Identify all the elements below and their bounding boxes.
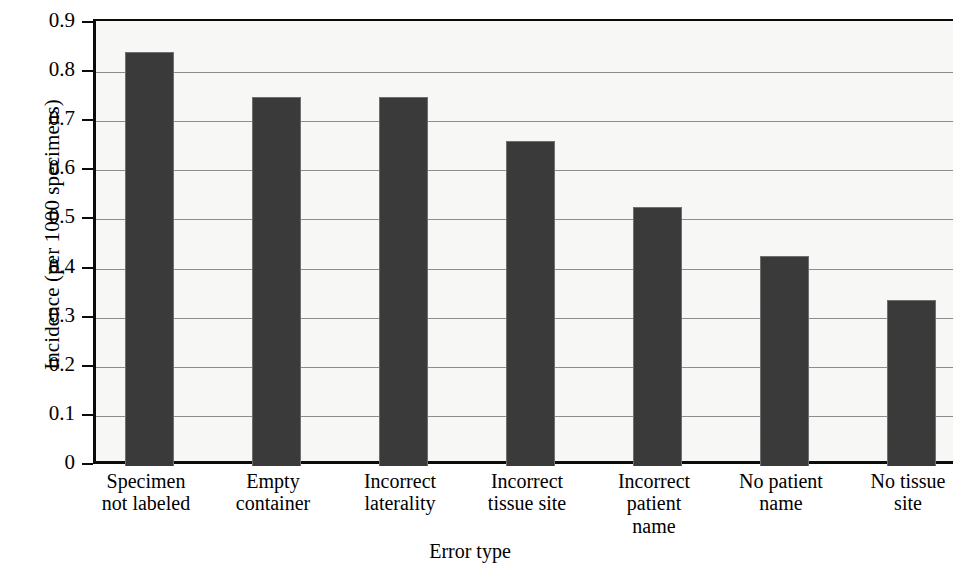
category-label-line: site [828, 492, 953, 514]
y-axis-tick-label: 0.8 [0, 59, 75, 80]
x-axis-title: Error type [390, 540, 550, 563]
y-axis-tick-label: 0.5 [0, 206, 75, 227]
bar [760, 256, 809, 466]
bar [125, 52, 174, 466]
bar [252, 97, 301, 466]
bar [887, 300, 936, 466]
y-axis-tick-label: 0.7 [0, 108, 75, 129]
y-axis-tick-label: 0.9 [0, 10, 75, 31]
bar [633, 207, 682, 466]
y-axis-tick-label: 0.1 [0, 403, 75, 424]
plot-area [93, 19, 953, 464]
y-axis-tick-label: 0.6 [0, 157, 75, 178]
y-axis-tick [82, 267, 93, 269]
y-axis-tick [82, 463, 93, 465]
bar [506, 141, 555, 466]
x-axis-category-label: No tissuesite [828, 470, 953, 515]
y-axis-tick [82, 365, 93, 367]
y-axis-tick-label: 0.4 [0, 256, 75, 277]
gridline [96, 72, 953, 73]
y-axis-tick [82, 168, 93, 170]
y-axis-tick-label: 0.3 [0, 305, 75, 326]
y-axis-tick [82, 217, 93, 219]
y-axis-tick [82, 119, 93, 121]
y-axis-tick [82, 70, 93, 72]
bar [379, 97, 428, 466]
category-label-line: No tissue [828, 470, 953, 492]
y-axis-tick-label: 0.2 [0, 354, 75, 375]
y-axis-tick [82, 21, 93, 23]
y-axis-tick [82, 414, 93, 416]
category-label-line: name [574, 515, 734, 537]
y-axis-tick-label: 0 [0, 452, 75, 473]
gridline [96, 121, 953, 122]
bar-chart-figure: Incidence (per 1000 specimens) 00.10.20.… [0, 0, 953, 570]
y-axis-tick [82, 316, 93, 318]
